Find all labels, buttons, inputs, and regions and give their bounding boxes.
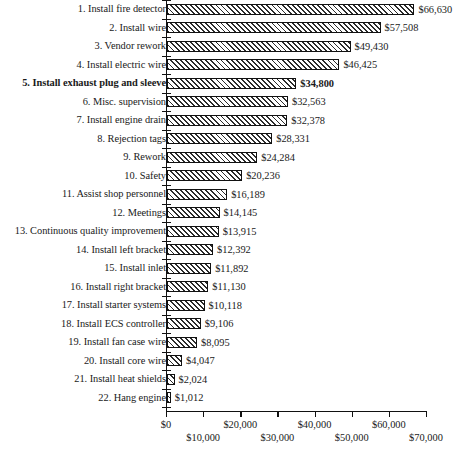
category-label: 19. Install fan case wire [68,333,166,352]
category-label: 18. Install ECS controller [61,315,166,334]
bar [167,263,211,274]
bar-row: 21. Install heat shields$2,024 [0,370,457,389]
y-tick [162,37,171,38]
bar-row: 16. Install right bracket$11,130 [0,278,457,297]
y-tick [162,56,171,57]
x-tick-label: $60,000 [372,419,406,430]
bar-with-value: $12,392 [167,241,251,260]
category-label: 10. Safety [124,167,166,186]
bar-with-value: $11,892 [167,259,249,278]
category-label: 5. Install exhaust plug and sleeve [22,74,166,93]
category-label: 15. Install inlet [104,259,166,278]
bar-value-label: $24,284 [261,152,295,163]
bar-with-value: $4,047 [167,352,215,371]
bar [167,244,213,255]
x-tick [315,411,316,417]
bar-value-label: $4,047 [186,355,215,366]
bar [167,355,182,366]
bar-row: 11. Assist shop personnel$16,189 [0,185,457,204]
y-tick [162,352,171,353]
bar-with-value: $46,425 [167,56,377,75]
y-tick [162,74,171,75]
bar-with-value: $10,118 [167,296,242,315]
y-tick [162,389,171,390]
y-tick [162,148,171,149]
y-tick [162,0,171,1]
x-tick [389,411,390,417]
bar [167,189,227,200]
y-tick [162,259,171,260]
y-tick [162,204,171,205]
pareto-bar-chart: 1. Install fire detector$66,6302. Instal… [0,0,457,473]
x-tick-label: $10,000 [186,432,220,443]
y-tick [162,278,171,279]
bar [167,96,288,107]
bar-row: 10. Safety$20,236 [0,167,457,186]
bar-row: 9. Rework$24,284 [0,148,457,167]
y-tick [162,130,171,131]
category-label: 3. Vendor rework [95,37,166,56]
bar-with-value: $32,563 [167,93,326,112]
bar [167,22,381,33]
x-axis-line [166,411,426,412]
bar-value-label: $66,630 [418,4,452,15]
bar-with-value: $8,095 [167,333,230,352]
bar-value-label: $14,145 [224,207,258,218]
bar-with-value: $1,012 [167,389,203,408]
bar-with-value: $34,800 [167,74,334,93]
category-label: 9. Rework [123,148,166,167]
bar-value-label: $1,012 [175,392,204,403]
bar-row: 1. Install fire detector$66,630 [0,0,457,19]
bar [167,318,201,329]
category-label: 8. Rejection tags [97,130,166,149]
x-tick-label: $70,000 [409,432,443,443]
category-label: 13. Continuous quality improvement [15,222,166,241]
y-tick [162,315,171,316]
x-tick-label: $40,000 [298,419,332,430]
bar [167,337,197,348]
bar-row: 7. Install engine drain$32,378 [0,111,457,130]
bar [167,300,205,311]
bar-row: 12. Meetings$14,145 [0,204,457,223]
bar-value-label: $32,563 [292,96,326,107]
category-label: 2. Install wire [109,19,166,38]
bar-with-value: $16,189 [167,185,265,204]
bar-row: 15. Install inlet$11,892 [0,259,457,278]
x-tick-label: $0 [161,419,171,430]
bar-with-value: $66,630 [167,0,452,19]
bar [167,4,414,15]
bar-value-label: $16,189 [231,189,265,200]
y-axis-line [166,0,167,411]
bar [167,392,171,403]
bar-with-value: $49,430 [167,37,388,56]
bar-with-value: $32,378 [167,111,325,130]
category-label: 12. Meetings [112,204,166,223]
x-tick-label: $30,000 [261,432,295,443]
bar-value-label: $11,130 [212,281,245,292]
bar-value-label: $46,425 [343,59,377,70]
bar-row: 22. Hang engine$1,012 [0,389,457,408]
category-label: 16. Install right bracket [70,278,166,297]
bar-value-label: $2,024 [179,374,208,385]
bar-value-label: $8,095 [201,337,230,348]
bar-row: 5. Install exhaust plug and sleeve$34,80… [0,74,457,93]
bar-row: 18. Install ECS controller$9,106 [0,315,457,334]
bar-row: 2. Install wire$57,508 [0,19,457,38]
x-tick [277,411,278,417]
bar-with-value: $9,106 [167,315,233,334]
bar-value-label: $28,331 [276,133,310,144]
category-label: 17. Install starter systems [62,296,166,315]
bar-row: 13. Continuous quality improvement$13,91… [0,222,457,241]
bar-row: 20. Install core wire$4,047 [0,352,457,371]
bar [167,115,287,126]
y-tick [162,407,171,408]
category-label: 11. Assist shop personnel [62,185,166,204]
bar-with-value: $57,508 [167,19,418,38]
category-label: 6. Misc. supervision [83,93,166,112]
y-tick [162,222,171,223]
bar-value-label: $34,800 [300,78,334,89]
bar [167,152,257,163]
y-tick [162,296,171,297]
bar-row: 3. Vendor rework$49,430 [0,37,457,56]
bar-value-label: $9,106 [205,318,234,329]
